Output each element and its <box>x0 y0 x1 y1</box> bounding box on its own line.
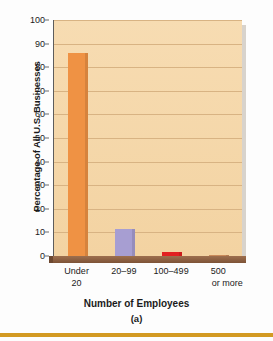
y-tick-label: 10 <box>35 227 45 237</box>
plot-canvas <box>53 20 242 256</box>
axis-floor <box>53 256 246 263</box>
y-tick-mark <box>45 20 49 21</box>
x-tick-label: 100–499 <box>148 266 195 278</box>
figure-caption: (a) <box>0 313 273 324</box>
y-axis-tick-labels: 0102030405060708090100 <box>20 20 49 256</box>
gridline <box>54 44 242 45</box>
bar-side-shade <box>132 229 135 256</box>
y-tick-label: 60 <box>35 109 45 119</box>
y-tick-mark <box>45 208 49 209</box>
bar-chart-figure: Percentage of All U.S. Businesses 010203… <box>0 0 273 341</box>
footer-rule <box>0 333 273 337</box>
bar <box>115 229 135 256</box>
y-tick-mark <box>45 232 49 233</box>
y-tick-label: 50 <box>35 133 45 143</box>
x-tick-label: Under20 <box>53 266 100 289</box>
y-tick-label: 20 <box>35 204 45 214</box>
y-tick-mark <box>45 185 49 186</box>
y-tick-mark <box>45 67 49 68</box>
y-tick-label: 70 <box>35 86 45 96</box>
y-tick-label: 80 <box>35 62 45 72</box>
y-tick-mark <box>45 161 49 162</box>
bar-side-shade <box>85 53 88 256</box>
plot-area <box>53 20 242 256</box>
gridline <box>54 20 242 21</box>
x-axis-tick-labels: Under2020–99100–499500or more <box>53 266 242 296</box>
y-tick-mark <box>45 43 49 44</box>
y-tick-mark <box>45 114 49 115</box>
x-tick-label: 20–99 <box>100 266 147 278</box>
x-tick-label: 500or more <box>195 266 242 289</box>
y-tick-label: 40 <box>35 157 45 167</box>
y-tick-label: 90 <box>35 39 45 49</box>
y-tick-mark <box>45 90 49 91</box>
y-tick-label: 100 <box>30 15 45 25</box>
x-axis-title: Number of Employees <box>0 298 273 309</box>
y-tick-label: 30 <box>35 180 45 190</box>
bar <box>68 53 88 256</box>
y-tick-mark <box>45 138 49 139</box>
